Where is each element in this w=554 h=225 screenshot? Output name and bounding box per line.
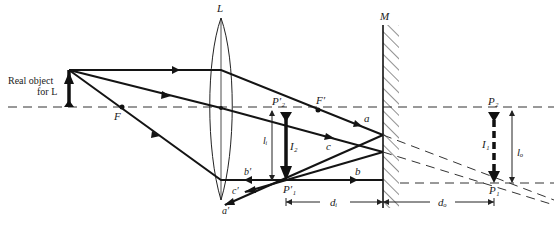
P2-prime-label: P′₂ xyxy=(271,95,285,107)
ray-b-reflected-label: b′ xyxy=(244,166,252,177)
di-label: dᵢ xyxy=(330,196,338,208)
ray-c-label: c xyxy=(326,140,331,152)
ray-a xyxy=(69,70,383,135)
ray-a-reflected-arrow xyxy=(224,198,235,205)
mirror xyxy=(383,25,399,208)
focal-left-label: F xyxy=(113,110,121,122)
P2-label: P₂ xyxy=(487,95,499,107)
object-label-line2: for L xyxy=(37,86,57,97)
lo-label: lₒ xyxy=(517,146,523,158)
ray-b-arrow-2 xyxy=(350,176,358,184)
ray-b xyxy=(69,70,383,180)
lo-dimension xyxy=(509,110,515,183)
mirror-label: M xyxy=(379,10,390,22)
ray-b-label: b xyxy=(355,165,361,177)
ray-a-label: a xyxy=(364,112,370,124)
I2-label: I₂ xyxy=(289,140,298,152)
P1-label: P₁ xyxy=(488,184,500,196)
optics-diagram: M L Real object for L F F′ a c b a′ c′ b… xyxy=(0,0,554,225)
I1-label: I₁ xyxy=(481,138,490,150)
ray-a-arrow-1 xyxy=(172,66,180,74)
image-I1-arrow xyxy=(488,112,500,183)
lens-label: L xyxy=(216,2,223,14)
ray-c-reflected-arrow xyxy=(244,186,256,193)
ray-b-reflected-arrow xyxy=(244,176,252,184)
ray-a-reflected-label: a′ xyxy=(222,205,230,216)
ray-c-reflected-label: c′ xyxy=(232,185,239,196)
li-label: lᵢ xyxy=(263,135,268,146)
do-label: dₒ xyxy=(438,196,447,208)
virtual-ray-a xyxy=(383,135,554,200)
real-object-arrow xyxy=(64,70,74,107)
object-label-line1: Real object xyxy=(8,75,53,86)
P1-prime-label: P′₁ xyxy=(282,183,296,195)
ray-a-arrow-2 xyxy=(353,120,362,127)
ray-c-reflected xyxy=(245,152,383,192)
focal-right-label: F′ xyxy=(315,94,326,106)
virtual-ray-c xyxy=(383,152,554,205)
